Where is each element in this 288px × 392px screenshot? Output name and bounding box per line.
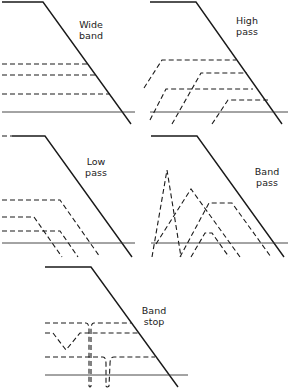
panel-label-line2: pass bbox=[85, 167, 107, 178]
panel-label-line1: Low bbox=[87, 156, 106, 167]
response-2 bbox=[150, 89, 253, 120]
panel-label-line1: Band bbox=[142, 305, 166, 316]
panel-band-stop: Band stop bbox=[45, 267, 188, 387]
envelope-line bbox=[45, 267, 178, 387]
filter-response-diagram: Wide band High pass Low pass Band pass bbox=[0, 0, 288, 392]
envelope-line bbox=[2, 2, 131, 124]
panel-label-line2: pass bbox=[256, 177, 278, 188]
response-small bbox=[191, 233, 229, 257]
panel-wide-band: Wide band bbox=[2, 2, 135, 124]
response-1 bbox=[144, 60, 236, 88]
response-wide bbox=[180, 203, 271, 257]
panel-label-line2: band bbox=[79, 30, 103, 41]
envelope-line bbox=[150, 2, 282, 124]
panel-label-line1: Wide bbox=[79, 19, 103, 30]
envelope-line bbox=[12, 136, 132, 257]
panel-label-line1: High bbox=[236, 15, 258, 26]
response-3 bbox=[172, 73, 247, 124]
panel-label-line2: stop bbox=[144, 316, 165, 327]
panel-band-pass: Band pass bbox=[151, 136, 288, 257]
response-2 bbox=[2, 217, 62, 257]
panel-label-line2: pass bbox=[236, 26, 258, 37]
panel-high-pass: High pass bbox=[144, 2, 288, 124]
response-medium bbox=[156, 189, 240, 257]
response-3 bbox=[2, 231, 78, 257]
panel-label-line1: Band bbox=[255, 166, 279, 177]
response-notch-second bbox=[45, 357, 155, 387]
response-1 bbox=[2, 200, 100, 257]
panel-low-pass: Low pass bbox=[2, 136, 135, 257]
